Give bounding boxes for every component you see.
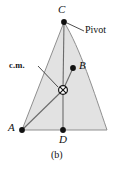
leader-line-pivot	[67, 23, 84, 31]
pivot-annotation-label: Pivot	[85, 25, 106, 35]
point-marker-C	[61, 19, 67, 25]
center-of-mass-icon	[59, 86, 68, 95]
point-marker-A	[19, 127, 25, 133]
point-marker-B	[70, 65, 76, 71]
figure-caption: (b)	[51, 150, 63, 160]
point-label-B: B	[79, 60, 86, 71]
point-label-A: A	[8, 122, 15, 133]
point-label-C: C	[58, 4, 65, 15]
point-label-D: D	[59, 134, 67, 145]
center-of-mass-annotation-label: c.m.	[9, 61, 25, 70]
lamina-shape	[22, 22, 107, 130]
figure-container: C B A D Pivot c.m. (b)	[0, 0, 121, 177]
